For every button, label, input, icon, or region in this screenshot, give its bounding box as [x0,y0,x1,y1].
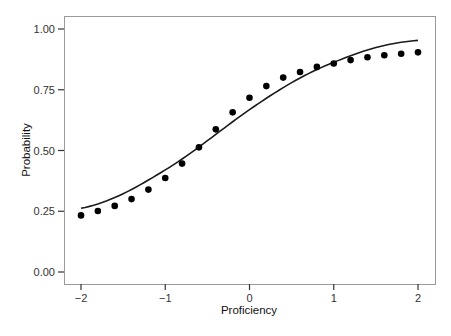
x-axis: −2−1012 [75,284,421,304]
data-point [128,196,135,203]
data-point [263,83,270,90]
chart: 0.000.250.500.751.00 −2−1012 Proficiency… [0,0,451,336]
data-point [111,203,118,210]
y-tick-label: 0.00 [34,266,55,278]
data-point [347,57,354,64]
plot-frame [65,17,436,285]
data-point [145,186,152,193]
data-point [162,175,169,182]
x-axis-title: Proficiency [221,304,277,316]
data-point [330,60,337,67]
data-point [179,160,186,167]
data-point [415,49,422,56]
model-curve-line [81,40,418,208]
data-point [213,126,220,133]
y-axis-title: Probability [20,123,32,177]
data-point [398,50,405,57]
data-point [78,212,85,219]
y-axis: 0.000.250.500.751.00 [34,23,64,278]
observed-points [78,49,422,219]
y-tick-label: 0.75 [34,84,55,96]
x-tick-label: 0 [246,292,252,304]
data-point [381,52,388,59]
data-point [95,208,102,215]
data-point [314,64,321,71]
y-tick-label: 0.25 [34,205,55,217]
data-point [297,69,304,76]
x-tick-label: 2 [415,292,421,304]
y-tick-label: 1.00 [34,23,55,35]
data-point [196,144,203,151]
x-tick-label: −1 [159,292,172,304]
data-point [229,109,236,116]
y-tick-label: 0.50 [34,145,55,157]
x-tick-label: −2 [75,292,88,304]
data-point [364,54,371,61]
data-point [280,74,287,81]
x-tick-label: 1 [331,292,337,304]
data-point [246,94,253,101]
